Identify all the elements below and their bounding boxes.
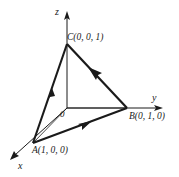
z-axis-label: z (55, 7, 59, 17)
figure-canvas (0, 0, 179, 177)
geometry-figure: z y x 0 C(0, 0, 1) B(0, 1, 0) A(1, 0, 0) (0, 0, 179, 177)
point-label-b: B(0, 1, 0) (129, 112, 165, 122)
x-axis-label: x (18, 161, 22, 171)
point-label-c: C(0, 0, 1) (67, 33, 103, 43)
y-axis-label: y (152, 93, 156, 103)
point-label-a: A(1, 0, 0) (32, 146, 68, 156)
origin-label: 0 (60, 110, 65, 119)
